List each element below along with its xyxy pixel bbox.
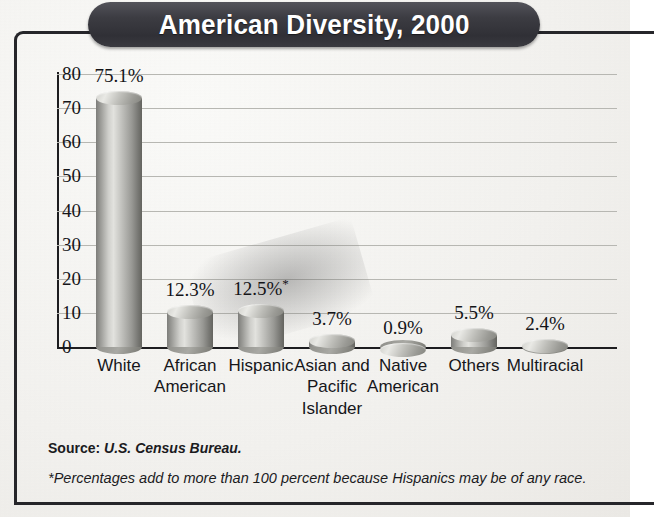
y-tick-label: 70 <box>62 98 81 117</box>
source-label: Source: <box>48 440 100 456</box>
bar-cylinder[interactable] <box>96 91 142 347</box>
plot-area: 75.1%12.3%12.5%*3.7%0.9%5.5%2.4% <box>57 74 617 347</box>
y-tick-label: 0 <box>62 337 72 356</box>
y-tick-label: 30 <box>62 235 81 254</box>
bar-cylinder[interactable] <box>451 328 497 347</box>
source-note: Source: U.S. Census Bureau. <box>48 440 242 456</box>
x-tick-label-line: American <box>362 376 445 397</box>
bar-cylinder[interactable] <box>167 305 213 347</box>
bar-cylinder[interactable] <box>522 339 568 347</box>
bar-slot[interactable]: 12.5%* <box>226 276 297 347</box>
title-banner: American Diversity, 2000 <box>88 2 540 47</box>
y-tick-label: 40 <box>62 201 81 220</box>
bar-value-label: 0.9% <box>383 317 423 339</box>
bar-value-label: 12.5%* <box>233 276 289 300</box>
chart-title: American Diversity, 2000 <box>159 9 470 41</box>
bar-cylinder[interactable] <box>309 334 355 347</box>
bar-value-label: 5.5% <box>454 302 494 324</box>
bar-body <box>96 98 142 347</box>
bar-slot[interactable]: 3.7% <box>297 308 368 347</box>
bar-top-ellipse <box>167 305 213 319</box>
bar-slot[interactable]: 12.3% <box>155 279 226 347</box>
y-tick-label: 80 <box>62 64 81 83</box>
bar-top-ellipse <box>96 91 142 105</box>
x-tick-label-line: Islander <box>291 398 374 419</box>
bar-slot[interactable]: 75.1% <box>84 65 155 347</box>
bar-value-label: 75.1% <box>94 65 143 87</box>
y-tick-label: 20 <box>62 269 81 288</box>
y-tick-label: 10 <box>62 303 81 322</box>
bar-slot[interactable]: 0.9% <box>368 317 439 347</box>
bar-slot[interactable]: 2.4% <box>510 313 581 347</box>
bar-slot[interactable]: 5.5% <box>439 302 510 347</box>
x-tick-label-line: American <box>149 376 232 397</box>
bar-cylinder[interactable] <box>380 343 426 347</box>
bar-value-label: 2.4% <box>525 313 565 335</box>
asterisk-footnote: *Percentages add to more than 100 percen… <box>48 470 586 486</box>
bar-top-ellipse <box>522 339 568 353</box>
x-tick-label: Multiracial <box>504 355 587 376</box>
y-tick-label: 60 <box>62 132 81 151</box>
bar-cylinder[interactable] <box>238 304 284 347</box>
source-value: U.S. Census Bureau. <box>104 440 242 456</box>
x-tick-label-line: Multiracial <box>504 355 587 376</box>
bar-value-label: 12.3% <box>165 279 214 301</box>
y-tick-label: 50 <box>62 166 81 185</box>
bar-value-label: 3.7% <box>312 308 352 330</box>
